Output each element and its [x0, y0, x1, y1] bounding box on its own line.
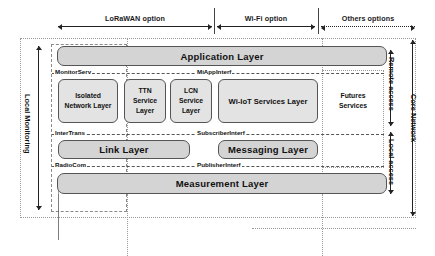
service-futures-label: Futures Services: [326, 91, 380, 111]
service-ttn-label: TTN Service Layer: [127, 86, 163, 116]
application-layer: Application Layer: [57, 46, 387, 66]
iface-label-subscriberinterf: SubscriberInterf: [196, 129, 246, 136]
link-layer: Link Layer: [58, 140, 190, 159]
iface-label-intertrans: InterTrans: [54, 129, 86, 136]
bottom-others-line: [252, 228, 416, 229]
iface-label-miappinterf: MiAppInterf: [196, 68, 232, 75]
divider-wifi-others: [318, 8, 319, 34]
bottom-guide-left: [58, 194, 59, 240]
local-access-label: Local access: [387, 139, 396, 185]
remote-access-label: Remote access: [387, 57, 396, 111]
link-layer-label: Link Layer: [99, 144, 149, 155]
span-arrow-others: [321, 26, 415, 27]
iface-label-publisherinterf: PublisherInterf: [196, 161, 242, 168]
service-lcn-label: LCN Service Layer: [173, 86, 209, 116]
service-ttn: TTN Service Layer: [124, 79, 166, 123]
span-label-wifi: Wi-Fi option: [217, 14, 315, 23]
core-network-label: Core Network: [409, 94, 418, 142]
divider-lorawan-wifi: [214, 8, 215, 34]
bottom-guide-lorawan: [127, 194, 128, 240]
service-isolated-network: Isolated Network Layer: [58, 79, 118, 123]
messaging-layer-label: Messaging Layer: [228, 144, 308, 155]
span-arrow-lorawan: [58, 26, 212, 27]
span-label-others: Others options: [321, 14, 415, 23]
application-layer-label: Application Layer: [180, 51, 263, 62]
service-lcn: LCN Service Layer: [170, 79, 212, 123]
service-isolated-network-label: Isolated Network Layer: [61, 91, 115, 111]
bottom-guide-wifi: [322, 194, 323, 240]
service-futures: Futures Services: [326, 79, 380, 123]
top-spans-region: LoRaWAN option Wi-Fi option Others optio…: [0, 0, 435, 34]
span-label-lorawan: LoRaWAN option: [58, 14, 212, 23]
local-monitoring-arrow: [38, 46, 39, 210]
service-wi-iot: Wi-IoT Services Layer: [218, 79, 318, 123]
iface-label-monitorserv: MonitorServ: [54, 68, 92, 75]
iface-label-radiocom: RadioCom: [54, 161, 87, 168]
local-monitoring-label: Local Monitoring: [23, 94, 32, 154]
service-wi-iot-label: Wi-IoT Services Layer: [229, 96, 308, 107]
measurement-layer: Measurement Layer: [57, 173, 387, 194]
bottom-boundary-line: [20, 217, 416, 218]
span-arrow-wifi: [217, 26, 315, 27]
measurement-layer-label: Measurement Layer: [176, 178, 269, 189]
messaging-layer: Messaging Layer: [218, 140, 318, 159]
